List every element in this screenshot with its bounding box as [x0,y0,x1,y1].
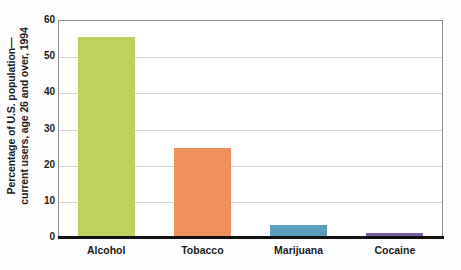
plot-area [58,20,443,237]
y-axis-tick-50: 50 [44,51,55,61]
bar-alcohol[interactable] [78,37,135,237]
x-axis-label-tobacco: Tobacco [154,243,250,263]
y-axis-tick-60: 60 [44,15,55,25]
y-axis-tick-labels: 0102030405060 [33,14,55,243]
x-axis-baseline [58,236,444,239]
y-axis-tick-30: 30 [44,124,55,134]
y-axis-title: Percentage of U.S. population— current u… [0,0,34,232]
x-axis-label-cocaine: Cocaine [347,243,443,263]
y-axis-tick-40: 40 [44,87,55,97]
y-axis-tick-0: 0 [49,232,55,242]
bar-tobacco[interactable] [174,148,231,237]
x-axis-label-alcohol: Alcohol [58,243,154,263]
y-axis-title-line-1: Percentage of U.S. population— [5,38,17,195]
bar-slot [346,21,442,237]
x-axis-label-marijuana: Marijuana [251,243,347,263]
bars-group [59,21,442,237]
x-axis-category-labels: AlcoholTobaccoMarijuanaCocaine [58,243,443,263]
y-axis-title-line-2: current users, age 26 and over, 1994 [18,27,30,204]
bar-slot [251,21,347,237]
bar-slot [155,21,251,237]
y-axis-tick-20: 20 [44,160,55,170]
y-axis-tick-10: 10 [44,196,55,206]
bar-chart: Percentage of U.S. population— current u… [0,0,461,270]
bar-slot [59,21,155,237]
